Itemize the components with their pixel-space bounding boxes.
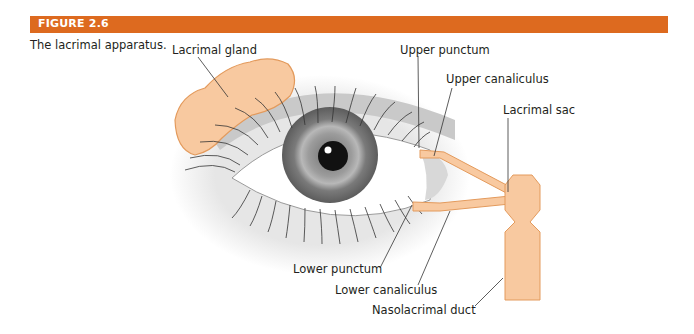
label-lower-canaliculus: Lower canaliculus: [335, 283, 437, 297]
leader-nasolacrimal-duct: [475, 278, 503, 306]
label-upper-canaliculus: Upper canaliculus: [446, 72, 549, 86]
label-upper-punctum: Upper punctum: [400, 43, 490, 57]
label-nasolacrimal-duct: Nasolacrimal duct: [372, 303, 476, 317]
pupil-highlight: [325, 147, 332, 154]
pupil: [318, 141, 348, 171]
label-lower-punctum: Lower punctum: [293, 262, 382, 276]
label-lacrimal-sac: Lacrimal sac: [503, 103, 575, 117]
lacrimal-sac-and-duct: [505, 175, 540, 300]
label-lacrimal-gland: Lacrimal gland: [172, 43, 257, 57]
